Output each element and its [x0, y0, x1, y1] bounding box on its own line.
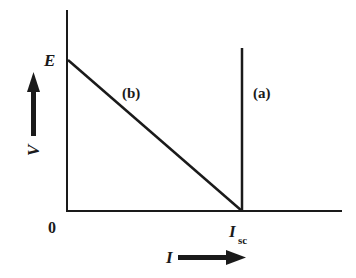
v-axis-arrow-icon [27, 72, 40, 136]
e-label: E [43, 51, 55, 70]
v-axis-label: V [24, 143, 43, 156]
vi-characteristic-diagram: E (b) (a) 0 I sc V I [0, 0, 356, 278]
curve-a-label: (a) [253, 85, 271, 102]
isc-label: I [228, 222, 237, 241]
i-axis-arrow-icon [178, 250, 246, 265]
isc-subscript: sc [238, 234, 247, 246]
origin-label: 0 [48, 219, 56, 236]
i-axis-label: I [165, 248, 174, 267]
curve-b-line [68, 60, 242, 211]
curve-b-label: (b) [122, 85, 140, 102]
